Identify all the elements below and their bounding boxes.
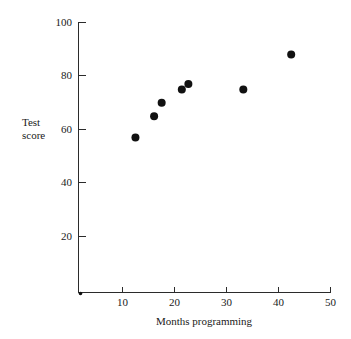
x-tick-label-10: 10 (117, 296, 129, 308)
data-point (150, 112, 158, 120)
x-axis-ticks (123, 287, 331, 293)
data-points-group (131, 51, 295, 142)
y-axis-title-line-2: score (22, 129, 45, 141)
origin-marker-dot (79, 292, 83, 296)
scatter-plot-figure: 100 80 60 40 20 10 20 30 40 50 Test scor… (0, 0, 351, 339)
chart-canvas: 100 80 60 40 20 10 20 30 40 50 Test scor… (0, 0, 351, 339)
data-point (184, 80, 192, 88)
data-point (287, 51, 295, 59)
x-tick-label-20: 20 (169, 296, 181, 308)
y-axis-ticks (79, 23, 86, 237)
x-tick-label-40: 40 (273, 296, 285, 308)
y-tick-label-80: 80 (61, 69, 73, 81)
y-tick-label-100: 100 (56, 16, 73, 28)
y-tick-label-60: 60 (61, 123, 73, 135)
axes-group (78, 22, 331, 293)
data-point (158, 99, 166, 107)
y-axis-title: Test score (22, 116, 45, 141)
data-point (131, 134, 139, 142)
data-point (239, 85, 247, 93)
y-axis-title-line-1: Test (22, 116, 40, 128)
x-axis-tick-labels: 10 20 30 40 50 (117, 296, 337, 308)
y-tick-label-40: 40 (61, 176, 73, 188)
x-tick-label-50: 50 (325, 296, 337, 308)
y-axis-tick-labels: 100 80 60 40 20 (56, 16, 73, 242)
x-tick-label-30: 30 (221, 296, 233, 308)
y-tick-label-20: 20 (61, 230, 73, 242)
x-axis-title: Months programming (156, 315, 253, 327)
data-point (178, 85, 186, 93)
